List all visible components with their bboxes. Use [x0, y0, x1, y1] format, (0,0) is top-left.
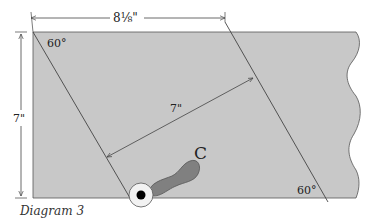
extension-line [31, 12, 33, 32]
diagram-caption: Diagram 3 [19, 204, 84, 218]
height-dimension-label: 7" [13, 112, 25, 125]
diagram-canvas: 8⅛" 7" 7" 60° 60° C Diagram 3 [0, 0, 374, 224]
angle-label-top: 60° [47, 37, 67, 50]
perpendicular-dimension-label: 7" [170, 102, 182, 115]
width-dimension-label: 8⅛" [113, 11, 138, 25]
tool-label: C [194, 143, 207, 163]
tool-hub [137, 191, 146, 200]
angle-label-bottom: 60° [297, 184, 317, 197]
